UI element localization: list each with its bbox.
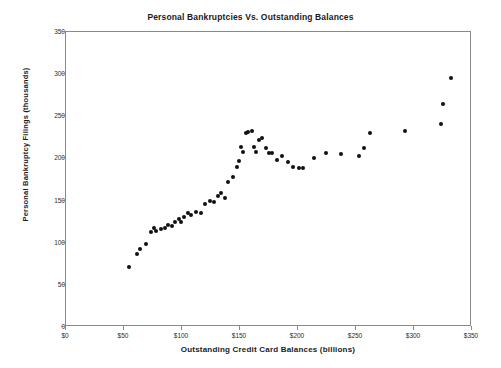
x-tick-mark — [181, 326, 182, 330]
data-point — [154, 229, 158, 233]
y-tick-mark — [61, 200, 65, 201]
data-point — [135, 252, 139, 256]
data-point — [275, 158, 279, 162]
data-point — [252, 145, 256, 149]
x-tick-mark — [297, 326, 298, 330]
data-point — [280, 154, 284, 158]
x-tick-label: $350 — [464, 332, 478, 339]
x-tick-mark — [65, 326, 66, 330]
y-tick-mark — [61, 157, 65, 158]
data-point — [368, 131, 372, 135]
data-point — [235, 165, 239, 169]
data-point — [179, 220, 183, 224]
data-point — [449, 76, 453, 80]
data-point — [291, 165, 295, 169]
data-point — [203, 202, 207, 206]
x-tick-label: $0 — [61, 332, 68, 339]
data-point — [357, 154, 361, 158]
data-point — [250, 129, 254, 133]
data-point — [173, 220, 177, 224]
x-tick-mark — [355, 326, 356, 330]
data-point — [403, 129, 407, 133]
data-point — [286, 160, 290, 164]
data-point — [138, 247, 142, 251]
data-point — [339, 152, 343, 156]
data-point — [194, 210, 198, 214]
data-point — [231, 175, 235, 179]
x-tick-mark — [239, 326, 240, 330]
chart-figure: Personal Bankruptcies Vs. Outstanding Ba… — [0, 0, 501, 368]
data-point — [254, 150, 258, 154]
data-point — [237, 159, 241, 163]
x-tick-label: $150 — [232, 332, 246, 339]
data-point — [441, 102, 445, 106]
x-tick-mark — [123, 326, 124, 330]
x-tick-label: $250 — [348, 332, 362, 339]
x-tick-label: $100 — [174, 332, 188, 339]
y-tick-mark — [61, 242, 65, 243]
y-tick-mark — [61, 115, 65, 116]
scatter-points-layer — [66, 32, 470, 325]
data-point — [216, 194, 220, 198]
data-point — [170, 224, 174, 228]
data-point — [301, 166, 305, 170]
y-tick-mark — [61, 73, 65, 74]
y-tick-mark — [61, 31, 65, 32]
data-point — [239, 145, 243, 149]
x-tick-label: $300 — [406, 332, 420, 339]
data-point — [324, 151, 328, 155]
data-point — [189, 213, 193, 217]
x-tick-mark — [471, 326, 472, 330]
y-axis: 050100150200250300350 — [31, 31, 65, 326]
data-point — [199, 211, 203, 215]
data-point — [270, 151, 274, 155]
data-point — [362, 146, 366, 150]
data-point — [219, 191, 223, 195]
data-point — [264, 146, 268, 150]
data-point — [226, 180, 230, 184]
x-axis-title: Outstanding Credit Card Balances (billio… — [65, 345, 471, 354]
data-point — [127, 265, 131, 269]
chart-title: Personal Bankruptcies Vs. Outstanding Ba… — [0, 12, 501, 22]
data-point — [212, 200, 216, 204]
data-point — [439, 122, 443, 126]
data-point — [260, 136, 264, 140]
data-point — [149, 230, 153, 234]
y-axis-title: Personal Bankruptcy Filings (thousands) — [21, 45, 30, 245]
x-tick-label: $200 — [290, 332, 304, 339]
y-tick-mark — [61, 284, 65, 285]
data-point — [182, 215, 186, 219]
x-tick-label: $50 — [118, 332, 129, 339]
data-point — [312, 156, 316, 160]
data-point — [208, 199, 212, 203]
plot-area — [65, 31, 471, 326]
data-point — [223, 196, 227, 200]
data-point — [144, 242, 148, 246]
x-tick-mark — [413, 326, 414, 330]
data-point — [241, 150, 245, 154]
